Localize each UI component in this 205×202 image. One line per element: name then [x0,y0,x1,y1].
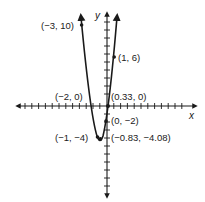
label-point-1-6: (1, 6) [118,52,140,63]
parabola-graph: x y [0,0,205,202]
y-axis: y [94,10,110,196]
point-vertex [98,137,102,141]
label-vertex: (−0.83, −4.08) [111,132,171,143]
point-1-6 [112,55,116,59]
point-033-0 [106,104,110,108]
point-0-neg2 [104,119,108,123]
label-point-neg1-neg4: (−1, −4) [55,132,88,143]
y-axis-label: y [94,10,101,21]
label-point-neg2-0: (−2, 0) [55,91,83,102]
x-axis-label: x [188,110,195,121]
point-neg3-10 [80,23,84,27]
label-point-0-neg2: (0, −2) [111,115,139,126]
label-point-neg3-10: (−3, 10) [41,20,74,31]
label-point-033-0: (0.33, 0) [111,91,146,102]
